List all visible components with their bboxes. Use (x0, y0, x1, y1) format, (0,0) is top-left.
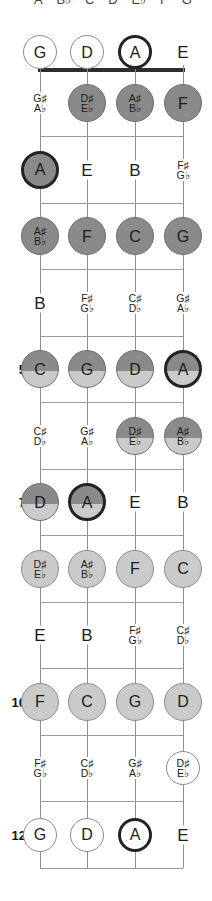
note-label: E (34, 627, 45, 644)
note-label: D♭ (177, 635, 190, 645)
note-fret11-d-string: C♯D♭ (78, 757, 97, 779)
note-fret6-a-string: D♯E♭ (116, 417, 154, 455)
note-fret10-e-string: D (164, 683, 202, 721)
note-fret4-a-string: C♯D♭ (126, 292, 145, 314)
note-label: E♭ (177, 768, 189, 778)
note-fret4-d-string: F♯G♭ (77, 292, 96, 314)
note-fret11-e-string: D♯E♭ (166, 751, 200, 785)
note-label: D♭ (81, 768, 94, 778)
note-label: B (81, 627, 92, 644)
note-fret7-e-string: B (174, 493, 191, 512)
note-fret3-d-string: F (68, 217, 106, 255)
note-fret12-d-string: D (70, 818, 104, 852)
note-fret6-e-string: A♯B♭ (164, 417, 202, 455)
note-label: G (34, 44, 46, 61)
note-fret5-d-string: G (68, 350, 106, 388)
note-label: G♭ (128, 635, 141, 645)
note-fret1-a-string: A♯B♭ (116, 84, 154, 122)
note-label: A♭ (81, 436, 93, 446)
scale-note-name: E♭ (132, 0, 147, 7)
note-label: A (130, 44, 141, 61)
note-fret0-d-string: D (70, 35, 104, 69)
note-label: C (34, 361, 46, 378)
note-fret0-a-string: A (118, 35, 152, 69)
note-fret2-e-string: F♯G♭ (173, 159, 192, 181)
fret-line-11 (40, 801, 183, 802)
note-label: A (82, 494, 93, 511)
scale-note-name: C (85, 0, 94, 7)
note-fret1-d-string: D♯E♭ (68, 84, 106, 122)
note-fret8-a-string: F (116, 550, 154, 588)
note-fret10-a-string: G (116, 683, 154, 721)
note-fret7-a-string: E (126, 493, 143, 512)
string-line-d (87, 65, 88, 868)
note-fret8-e-string: C (164, 550, 202, 588)
note-label: E♭ (81, 103, 93, 113)
note-label: B♭ (81, 569, 93, 579)
note-label: A (35, 161, 46, 178)
note-fret8-d-string: A♯B♭ (68, 550, 106, 588)
note-fret10-g-string: F (21, 683, 59, 721)
note-label: B (129, 161, 140, 178)
note-fret5-a-string: D (116, 350, 154, 388)
note-fret12-e-string: E (174, 825, 191, 844)
note-label: B (177, 494, 188, 511)
scale-note-name: B♭ (57, 0, 72, 7)
note-fret5-e-string: A (164, 350, 202, 388)
note-fret7-d-string: A (68, 483, 106, 521)
fret-line-10 (40, 735, 183, 736)
note-fret0-g-string: G (23, 35, 57, 69)
note-label: C (177, 560, 189, 577)
note-fret2-g-string: A (21, 151, 59, 189)
note-label: E♭ (129, 436, 141, 446)
note-label: B♭ (34, 236, 46, 246)
note-label: A♭ (34, 103, 46, 113)
note-label: D♭ (129, 303, 142, 313)
note-label: D (129, 361, 141, 378)
note-label: G♭ (33, 768, 46, 778)
note-fret5-g-string: C (21, 350, 59, 388)
note-fret10-d-string: C (68, 683, 106, 721)
note-fret12-g-string: G (23, 818, 57, 852)
note-label: E (177, 44, 188, 61)
note-fret1-e-string: F (164, 84, 202, 122)
note-fret3-e-string: G (164, 217, 202, 255)
note-label: A♭ (129, 768, 141, 778)
note-label: G (129, 693, 141, 710)
note-label: D (34, 494, 46, 511)
note-label: A (130, 826, 141, 843)
note-fret7-g-string: D (21, 483, 59, 521)
scale-note-name: G (182, 0, 192, 7)
note-label: D (81, 826, 93, 843)
note-fret3-g-string: A♯B♭ (21, 217, 59, 255)
fret-line-2 (40, 203, 183, 204)
note-label: E (81, 161, 92, 178)
note-label: E (177, 826, 188, 843)
note-label: G (177, 228, 189, 245)
scale-note-name: A (34, 0, 43, 7)
note-label: C (81, 693, 93, 710)
note-fret2-a-string: B (126, 160, 143, 179)
note-fret0-e-string: E (174, 43, 191, 62)
fret-line-7 (40, 535, 183, 536)
fret-line-1 (40, 136, 183, 137)
scale-note-name: F (160, 0, 168, 7)
note-label: G♭ (176, 170, 189, 180)
note-label: E♭ (34, 569, 46, 579)
note-label: F (35, 693, 45, 710)
note-fret12-a-string: A (118, 818, 152, 852)
note-label: A♭ (177, 303, 189, 313)
note-label: C (129, 228, 141, 245)
note-fret4-e-string: G♯A♭ (173, 292, 192, 314)
note-fret1-g-string: G♯A♭ (30, 92, 49, 114)
note-label: E (129, 494, 140, 511)
note-label: G♭ (80, 303, 93, 313)
note-fret11-a-string: G♯A♭ (125, 757, 144, 779)
note-label: D (177, 693, 189, 710)
fret-line-9 (40, 668, 183, 669)
note-fret9-g-string: E (31, 626, 48, 645)
note-fret9-d-string: B (78, 626, 95, 645)
note-fret9-e-string: C♯D♭ (174, 624, 193, 646)
note-label: D (81, 44, 93, 61)
note-label: G (34, 826, 46, 843)
